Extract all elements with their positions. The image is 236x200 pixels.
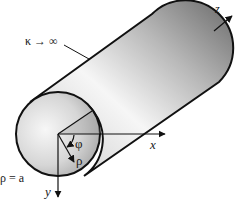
phi-label: φ	[75, 136, 83, 151]
rho-label: ρ	[76, 153, 83, 168]
conductivity-leader-line	[64, 45, 89, 59]
conductivity-label: κ → ∞	[25, 34, 58, 48]
x-axis-label: x	[149, 137, 156, 152]
z-axis-label: z	[214, 2, 220, 16]
y-axis-label: y	[43, 184, 51, 199]
radius-condition-label: ρ = a	[0, 171, 25, 185]
cylinder-diagram: κ → ∞ z x y φ ρ ρ = a	[0, 0, 236, 200]
